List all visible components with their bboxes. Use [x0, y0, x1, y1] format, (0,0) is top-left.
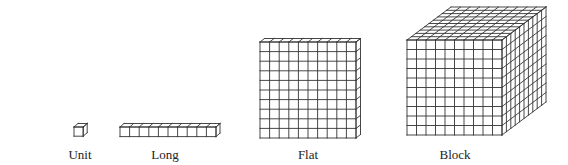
block-cube-icon — [407, 7, 546, 135]
block-label: Block — [439, 147, 470, 163]
unit-cube-icon — [74, 124, 87, 137]
long-label: Long — [151, 147, 178, 163]
long-rod-icon — [120, 124, 220, 137]
unit-label: Unit — [68, 147, 91, 163]
flat-label: Flat — [298, 147, 318, 163]
base-ten-blocks-diagram — [0, 0, 568, 165]
flat-square-icon — [260, 39, 361, 139]
